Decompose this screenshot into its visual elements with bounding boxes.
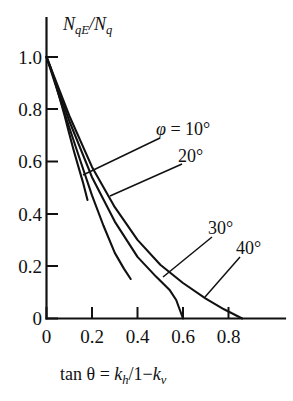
curve-label-phi-10-rest: = 10° <box>166 119 210 139</box>
y-tick-labels: 0 0.2 0.4 0.6 0.8 1.0 <box>18 47 42 330</box>
leader-line-phi-40 <box>205 257 240 297</box>
leader-line-phi-10 <box>83 138 160 175</box>
y-axis-title-sub-q: q <box>106 23 112 37</box>
y-tick-label-3: 0.6 <box>18 151 42 172</box>
x-axis-title-mid: /1− <box>129 364 153 384</box>
y-tick-label-4: 0.8 <box>18 99 42 120</box>
svg-text:NqE/Nq: NqE/Nq <box>62 14 112 37</box>
x-tick-label-3: 0.6 <box>171 326 195 347</box>
y-axis-title: NqE/Nq <box>62 14 112 37</box>
x-tick-labels: 0 0.2 0.4 0.6 0.8 <box>42 326 241 347</box>
curve-group <box>47 57 243 319</box>
y-axis-title-sub-qE: qE <box>75 23 89 37</box>
x-axis-title-equals: = <box>95 364 114 384</box>
svg-text:tan θ = kh/1−kv: tan θ = kh/1−kv <box>60 364 167 387</box>
y-tick-marks <box>47 57 59 319</box>
curve-label-phi-symbol: φ <box>156 119 166 139</box>
x-tick-label-0: 0 <box>42 326 52 347</box>
curve-label-phi-20: 20° <box>178 146 203 166</box>
curve-phi-40 <box>47 57 243 319</box>
y-axis-title-slash-N: /N <box>88 14 107 34</box>
chart-svg: 0 0.2 0.4 0.6 0.8 1.0 0 0.2 0.4 0.6 0.8 … <box>0 0 293 401</box>
chart-figure: 0 0.2 0.4 0.6 0.8 1.0 0 0.2 0.4 0.6 0.8 … <box>0 0 293 401</box>
x-axis-title-k2-sub: v <box>161 373 167 387</box>
x-tick-label-2: 0.4 <box>126 326 150 347</box>
y-axis-title-N1: N <box>62 14 76 34</box>
curve-label-phi-30: 30° <box>208 218 233 238</box>
x-tick-label-4: 0.8 <box>217 326 241 347</box>
curve-phi-30 <box>47 57 184 319</box>
x-tick-label-1: 0.2 <box>80 326 104 347</box>
y-tick-label-0: 0 <box>33 308 43 329</box>
x-axis-title-tan: tan <box>60 364 87 384</box>
x-axis-title-theta: θ <box>87 364 96 384</box>
y-tick-label-5: 1.0 <box>18 47 42 68</box>
curve-label-group: φ = 10° 20° 30° 40° <box>156 119 261 258</box>
leader-line-phi-20 <box>110 164 182 196</box>
curve-label-phi-10: φ = 10° <box>156 119 210 139</box>
leader-line-phi-30 <box>163 237 212 277</box>
x-axis-title: tan θ = kh/1−kv <box>60 364 167 387</box>
y-tick-label-1: 0.2 <box>18 256 42 277</box>
x-tick-marks <box>47 307 229 319</box>
y-tick-label-2: 0.4 <box>18 204 42 225</box>
curve-label-phi-40: 40° <box>236 238 261 258</box>
